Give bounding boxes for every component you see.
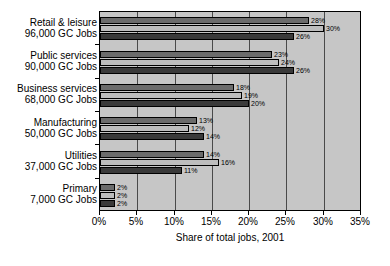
bar-3-3	[100, 100, 249, 107]
x-axis-tick-labels: 0%5%10%15%20%25%30%35%	[0, 216, 390, 230]
x-axis-tick	[285, 211, 286, 215]
bar-value-label-5-2: 16%	[221, 159, 235, 166]
category-jobs-count: 7,000 GC Jobs	[0, 194, 97, 205]
bar-6-1	[100, 184, 115, 191]
bar-3-2	[100, 92, 242, 99]
bar-value-label-1-3: 26%	[296, 33, 310, 40]
x-axis-tick	[136, 211, 137, 215]
bar-value-label-6-2: 2%	[117, 192, 127, 199]
bar-chart: 28%30%26%23%24%26%18%19%20%13%12%14%14%1…	[0, 0, 390, 266]
x-axis-tick-label: 15%	[201, 216, 221, 227]
bar-value-label-3-1: 18%	[236, 84, 250, 91]
category-name: Retail & leisure	[0, 17, 97, 28]
x-axis-tick-label: 5%	[129, 216, 143, 227]
gridline	[137, 12, 138, 210]
bar-6-3	[100, 200, 115, 207]
category-axis-tick	[95, 78, 99, 79]
x-axis-tick-label: 30%	[313, 216, 333, 227]
bar-value-label-3-2: 19%	[244, 92, 258, 99]
x-axis-tick-label: 0%	[92, 216, 106, 227]
bar-1-2	[100, 25, 324, 32]
bar-value-label-1-2: 30%	[326, 25, 340, 32]
category-jobs-count: 68,000 GC Jobs	[0, 94, 97, 105]
x-axis-title: Share of total jobs, 2001	[99, 232, 361, 243]
category-name: Business services	[0, 83, 97, 94]
category-label-1: Retail & leisure96,000 GC Jobs	[0, 17, 97, 39]
category-axis-labels: Retail & leisure96,000 GC JobsPublic ser…	[0, 11, 97, 211]
bar-5-1	[100, 151, 204, 158]
category-name: Public services	[0, 50, 97, 61]
bar-3-1	[100, 84, 234, 91]
category-name: Primary	[0, 183, 97, 194]
bar-1-3	[100, 33, 294, 40]
x-axis-tick	[323, 211, 324, 215]
x-axis-tick	[211, 211, 212, 215]
bar-4-3	[100, 133, 204, 140]
category-label-4: Manufacturing50,000 GC Jobs	[0, 117, 97, 139]
category-jobs-count: 96,000 GC Jobs	[0, 28, 97, 39]
bar-4-2	[100, 125, 189, 132]
category-jobs-count: 37,000 GC Jobs	[0, 161, 97, 172]
category-name: Utilities	[0, 150, 97, 161]
x-axis-tick	[174, 211, 175, 215]
category-label-6: Primary7,000 GC Jobs	[0, 183, 97, 205]
x-axis-tick	[248, 211, 249, 215]
gridline	[212, 12, 213, 210]
x-axis-tick-label: 10%	[164, 216, 184, 227]
bar-6-2	[100, 192, 115, 199]
x-axis-tick	[99, 211, 100, 215]
gridline	[249, 12, 250, 210]
bar-value-label-2-3: 26%	[296, 67, 310, 74]
bar-value-label-4-1: 13%	[199, 117, 213, 124]
bar-4-1	[100, 117, 197, 124]
bar-2-3	[100, 67, 294, 74]
category-label-5: Utilities37,000 GC Jobs	[0, 150, 97, 172]
category-jobs-count: 90,000 GC Jobs	[0, 61, 97, 72]
gridline	[324, 12, 325, 210]
gridline	[175, 12, 176, 210]
bar-value-label-4-3: 14%	[206, 133, 220, 140]
bar-5-2	[100, 159, 219, 166]
category-axis-tick	[95, 44, 99, 45]
category-name: Manufacturing	[0, 117, 97, 128]
bar-value-label-5-1: 14%	[206, 151, 220, 158]
bar-value-label-1-1: 28%	[311, 17, 325, 24]
bar-value-label-5-3: 11%	[184, 167, 198, 174]
plot-area: 28%30%26%23%24%26%18%19%20%13%12%14%14%1…	[99, 11, 361, 211]
bar-value-label-2-2: 24%	[281, 59, 295, 66]
category-axis-tick	[95, 144, 99, 145]
x-axis-tick-label: 20%	[238, 216, 258, 227]
category-jobs-count: 50,000 GC Jobs	[0, 128, 97, 139]
bar-value-label-4-2: 12%	[191, 125, 205, 132]
gridline	[286, 12, 287, 210]
bar-value-label-3-3: 20%	[251, 100, 265, 107]
bar-2-1	[100, 51, 272, 58]
x-axis-tick-label: 25%	[275, 216, 295, 227]
category-label-2: Public services90,000 GC Jobs	[0, 50, 97, 72]
bar-value-label-6-1: 2%	[117, 184, 127, 191]
bar-5-3	[100, 167, 182, 174]
category-label-3: Business services68,000 GC Jobs	[0, 83, 97, 105]
category-axis-tick	[95, 178, 99, 179]
x-axis-tick	[360, 211, 361, 215]
bar-value-label-2-1: 23%	[274, 51, 288, 58]
x-axis-tick-label: 35%	[350, 216, 370, 227]
bar-value-label-6-3: 2%	[117, 200, 127, 207]
bar-1-1	[100, 17, 309, 24]
bar-2-2	[100, 59, 279, 66]
category-axis-tick	[95, 111, 99, 112]
